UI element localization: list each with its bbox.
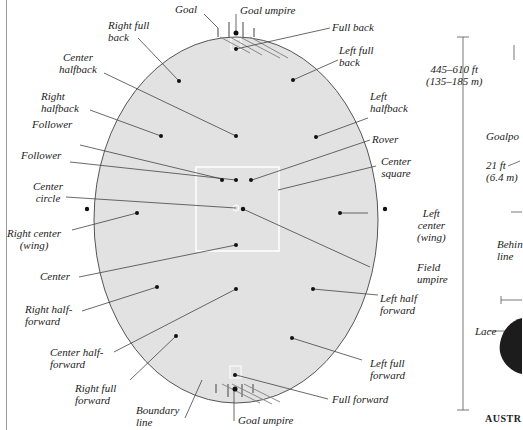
field-oval	[94, 37, 378, 403]
label-left-center-wing: Left center (wing)	[417, 207, 446, 243]
caption-australian: AUSTR	[485, 413, 521, 424]
label-right-full-back: Right full back	[108, 19, 149, 43]
label-center-square: Center square	[381, 155, 411, 179]
label-follower-2: Follower	[21, 149, 61, 161]
label-left-full-back: Left full back	[339, 44, 374, 68]
label-right-center-wing: Right center (wing)	[7, 227, 61, 251]
side-panel-graphics	[488, 45, 522, 331]
label-center-half-forward: Center half- forward	[50, 346, 103, 370]
dimension-line	[457, 37, 469, 410]
label-left-full-forward: Left full forward	[370, 357, 405, 381]
label-lace: Lace	[475, 325, 496, 337]
label-goal-umpire-bottom: Goal umpire	[238, 414, 294, 426]
label-goalposts: Goalpo	[486, 130, 519, 142]
label-center-circle: Center circle	[33, 180, 63, 204]
label-behind-line: Behin line	[497, 238, 523, 262]
football-ball	[500, 318, 522, 374]
label-field-umpire: Field umpire	[417, 261, 448, 285]
label-goal-width: 21 ft (6.4 m)	[486, 159, 518, 183]
label-goal-umpire-top: Goal umpire	[240, 4, 296, 16]
label-right-half-forward: Right half- forward	[25, 303, 72, 327]
label-left-halfback: Left halfback	[370, 90, 408, 114]
label-right-halfback: Right halfback	[41, 90, 79, 114]
label-center: Center	[40, 270, 70, 282]
label-left-half-forward: Left half forward	[380, 292, 417, 316]
label-full-back: Full back	[332, 21, 374, 33]
label-rover: Rover	[372, 133, 398, 145]
label-goal: Goal	[175, 3, 197, 15]
label-boundary-line: Boundary line	[136, 404, 179, 428]
label-follower-1: Follower	[32, 118, 72, 130]
label-field-length: 445–610 ft (135–185 m)	[426, 63, 483, 87]
label-center-halfback: Center halfback	[59, 51, 97, 75]
label-right-full-forward: Right full forward	[75, 382, 116, 406]
label-full-forward: Full forward	[332, 393, 388, 405]
